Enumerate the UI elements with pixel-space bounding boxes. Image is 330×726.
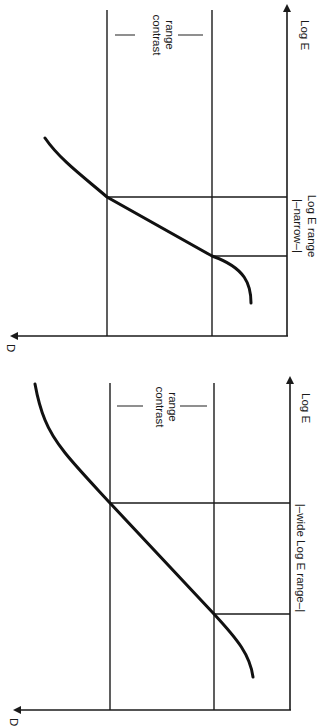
characteristic-curve-steep (45, 138, 251, 303)
contrast-label-line2: range (167, 392, 179, 421)
range-label-line1: |–narrow–| (292, 199, 304, 253)
range-label-line2: Log E range (306, 195, 318, 258)
chart-wide: Log E D contrast range |–wide Log E rang… (8, 378, 312, 726)
range-label: |–wide Log E range–| (295, 504, 307, 612)
density-axis-label: D (8, 718, 20, 726)
density-axis-label: D (5, 344, 17, 352)
figure-canvas: Log E D contrast range |–narrow–| Log E … (0, 0, 330, 726)
contrast-label-line1: contrast (151, 15, 163, 57)
characteristic-curve-shallow (35, 384, 253, 677)
chart-narrow: Log E D contrast range |–narrow–| Log E … (5, 6, 318, 352)
contrast-label-line1: contrast (154, 387, 166, 429)
log-e-axis-label: Log E (299, 20, 311, 50)
log-e-axis-label: Log E (300, 393, 312, 423)
contrast-label-line2: range (164, 20, 176, 49)
